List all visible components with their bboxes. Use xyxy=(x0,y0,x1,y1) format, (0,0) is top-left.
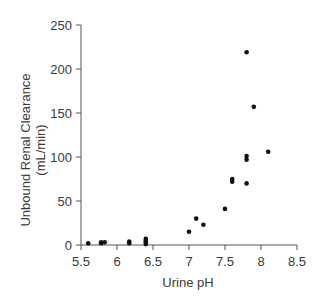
data-point xyxy=(230,177,235,182)
data-point xyxy=(244,50,249,55)
y-axis-title-group: Unbound Renal Clearance (mL/min) xyxy=(18,73,48,226)
data-point xyxy=(144,237,149,242)
data-point xyxy=(102,240,107,245)
x-tick-label: 7 xyxy=(185,254,192,269)
y-tick-label: 0 xyxy=(65,238,72,253)
data-point xyxy=(187,230,192,235)
x-tick-label: 8.5 xyxy=(288,254,306,269)
data-point xyxy=(86,241,91,246)
data-points xyxy=(86,50,271,246)
data-point xyxy=(194,216,199,221)
y-tick-label: 50 xyxy=(58,194,72,209)
y-tick-label: 250 xyxy=(50,18,72,33)
x-tick-label: 6.5 xyxy=(144,254,162,269)
x-axis: 5.566.577.588.5 xyxy=(72,245,306,269)
x-axis-title: Urine pH xyxy=(162,275,213,290)
x-tick-label: 7.5 xyxy=(216,254,234,269)
scatter-chart: 050100150200250 5.566.577.588.5 Urine pH… xyxy=(0,0,321,306)
data-point xyxy=(244,181,249,186)
y-tick-label: 150 xyxy=(50,106,72,121)
y-tick-label: 100 xyxy=(50,150,72,165)
data-point xyxy=(223,207,228,212)
data-point xyxy=(127,239,132,244)
y-axis-title-line-2: (mL/min) xyxy=(33,124,48,175)
x-tick-label: 5.5 xyxy=(72,254,90,269)
x-tick-label: 6 xyxy=(113,254,120,269)
data-point xyxy=(266,149,271,154)
x-tick-label: 8 xyxy=(257,254,264,269)
y-axis: 050100150200250 xyxy=(50,18,81,253)
data-point xyxy=(244,154,249,159)
data-point xyxy=(201,222,206,227)
y-axis-title-line-1: Unbound Renal Clearance xyxy=(18,73,33,226)
y-tick-label: 200 xyxy=(50,62,72,77)
data-point xyxy=(252,105,257,110)
